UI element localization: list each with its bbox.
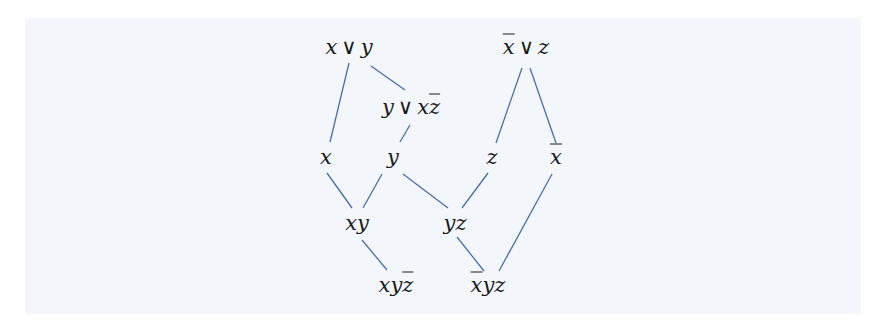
- edge-yz-to-xbar_yz: [457, 237, 484, 271]
- node-y: y: [387, 147, 399, 168]
- node-xy_zbar: xyz: [379, 275, 414, 296]
- negated-variable: x: [550, 145, 562, 169]
- operator-or: ∨: [519, 35, 534, 59]
- node-xy: xy: [345, 213, 369, 234]
- variable: yz: [482, 273, 505, 297]
- edge-z-to-yz: [462, 173, 488, 208]
- operator-or: ∨: [398, 95, 413, 119]
- node-x: x: [320, 147, 332, 168]
- variable: z: [486, 145, 497, 169]
- variable: x: [320, 145, 332, 169]
- variable: x: [325, 35, 337, 59]
- edge-xbar_or_z-to-xbar: [530, 68, 556, 143]
- node-x_or_y: x∨y: [325, 37, 372, 58]
- node-xbar: x: [550, 147, 562, 168]
- variable: y: [387, 145, 399, 169]
- operator-or: ∨: [341, 35, 356, 59]
- variable: xy: [345, 211, 369, 235]
- variable: x: [417, 95, 429, 119]
- variable: y: [361, 35, 373, 59]
- variable: yz: [444, 211, 467, 235]
- edge-x_or_y-to-y_or_x_zbar: [371, 66, 405, 90]
- edge-y-to-yz: [403, 174, 448, 208]
- edge-y-to-xy: [363, 174, 382, 208]
- node-yz: yz: [444, 213, 467, 234]
- variable: xy: [379, 273, 403, 297]
- edge-xbar-to-xbar_yz: [499, 174, 552, 271]
- edge-xy-to-xy_zbar: [362, 240, 387, 270]
- node-xbar_yz: xyz: [471, 275, 506, 296]
- edge-x-to-xy: [327, 173, 352, 208]
- node-z: z: [486, 147, 497, 168]
- edge-y_or_x_zbar-to-y: [400, 125, 410, 142]
- negated-variable: x: [503, 35, 515, 59]
- edge-x_or_y-to-x: [330, 63, 349, 142]
- node-xbar_or_z: x∨z: [503, 37, 549, 58]
- variable: z: [538, 35, 549, 59]
- variable: y: [382, 95, 394, 119]
- negated-variable: z: [402, 273, 413, 297]
- edge-xbar_or_z-to-z: [496, 68, 522, 143]
- negated-variable: z: [429, 95, 440, 119]
- node-y_or_x_zbar: y∨xz: [382, 97, 440, 118]
- edge-layer: [0, 0, 882, 332]
- negated-variable: x: [471, 273, 483, 297]
